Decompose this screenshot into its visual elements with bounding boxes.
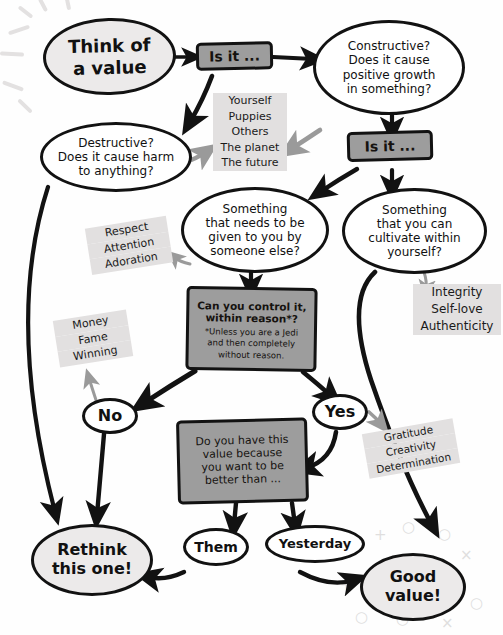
node-rethink-this-one[interactable]: Rethink this one! xyxy=(31,524,153,596)
arrow-isit1-to-destructive xyxy=(190,76,212,122)
arrow-isit2-to-given xyxy=(320,169,357,192)
arrow-yes-to-betterthan xyxy=(306,432,336,468)
decor-sparkle: + xyxy=(340,578,353,593)
node-destructive-question[interactable]: Destructive? Does it cause harm to anyth… xyxy=(40,122,192,192)
decor-sparkle: ○ xyxy=(470,596,483,611)
node-is-it-2[interactable]: Is it ... xyxy=(347,130,434,162)
decor-dash xyxy=(0,51,24,56)
gray-arrow-to-given-examples xyxy=(174,257,190,264)
node-control-question[interactable]: Can you control it, within reason*? *Unl… xyxy=(185,286,317,372)
list-destructive-targets: Yourself Puppies Others The planet The f… xyxy=(213,93,287,171)
list-item: Others xyxy=(213,124,287,140)
arrow-no-to-rethink xyxy=(97,434,104,515)
arrow-control-to-no xyxy=(144,371,195,403)
decor-dash xyxy=(17,98,33,113)
node-good-value[interactable]: Good value! xyxy=(360,553,466,621)
arrow-destructive-to-rethink xyxy=(28,187,55,512)
list-item: Authenticity xyxy=(413,318,501,335)
decor-dash xyxy=(18,5,34,19)
decor-dash xyxy=(65,0,71,10)
decor-sparkle: + xyxy=(374,528,387,543)
node-yesterday[interactable]: Yesterday xyxy=(265,525,365,563)
decor-sparkle: ○ xyxy=(402,520,415,535)
list-item: Self-love xyxy=(413,301,501,318)
decor-dash xyxy=(2,80,24,91)
arrow-betterthan-to-them xyxy=(234,503,236,525)
arrow-them-to-rethink xyxy=(148,572,184,578)
node-better-than-question[interactable]: Do you have this value because you want … xyxy=(176,417,309,504)
decor-sparkle: × xyxy=(441,616,454,631)
node-no[interactable]: No xyxy=(82,398,138,434)
decor-sparkle: ○ xyxy=(355,610,368,625)
decor-sparkle: ○ xyxy=(438,527,451,542)
node-them[interactable]: Them xyxy=(183,528,249,566)
arrow-control-to-yes xyxy=(303,372,331,396)
node-is-it-1[interactable]: Is it ... xyxy=(196,41,274,70)
decor-dash xyxy=(8,25,30,36)
list-item: The planet xyxy=(213,140,287,156)
node-given-by-someone-else[interactable]: Something that needs to be given to you … xyxy=(181,187,329,273)
decor-sparkle: × xyxy=(460,548,473,563)
decor-dash xyxy=(38,0,48,12)
list-item: Integrity xyxy=(413,284,501,301)
list-no-examples: Money Fame Winning xyxy=(53,310,133,368)
list-cultivate-examples: Integrity Self-love Authenticity xyxy=(413,284,501,335)
flowchart-canvas: + ○ ○ × + ○ ○ × ○ xyxy=(0,0,503,635)
gray-arrow-to-no-examples xyxy=(89,378,96,400)
node-think-of-a-value[interactable]: Think of a value xyxy=(42,16,177,96)
list-item: The future xyxy=(213,155,287,171)
list-given-examples: Respect Attention Adoration xyxy=(85,216,173,275)
control-question-text: Can you control it, within reason*? xyxy=(197,299,307,325)
arrow-isit1-to-constructive xyxy=(273,57,313,59)
list-yes-examples: Gratitude Creativity Determination xyxy=(362,418,460,478)
gray-arrow-to-targets-list xyxy=(291,130,320,149)
list-item: Puppies xyxy=(213,109,287,125)
node-constructive-question[interactable]: Constructive? Does it cause positive gro… xyxy=(313,20,465,115)
gray-arrow-to-yes-examples xyxy=(369,412,381,424)
control-question-footnote: *Unless you are a Jedi and then complete… xyxy=(204,326,298,362)
arrow-betterthan-to-yesterday xyxy=(292,503,295,525)
list-item: Yourself xyxy=(213,93,287,109)
node-yes[interactable]: Yes xyxy=(312,394,368,430)
node-cultivate-within-yourself[interactable]: Something that you can cultivate within … xyxy=(342,188,487,274)
